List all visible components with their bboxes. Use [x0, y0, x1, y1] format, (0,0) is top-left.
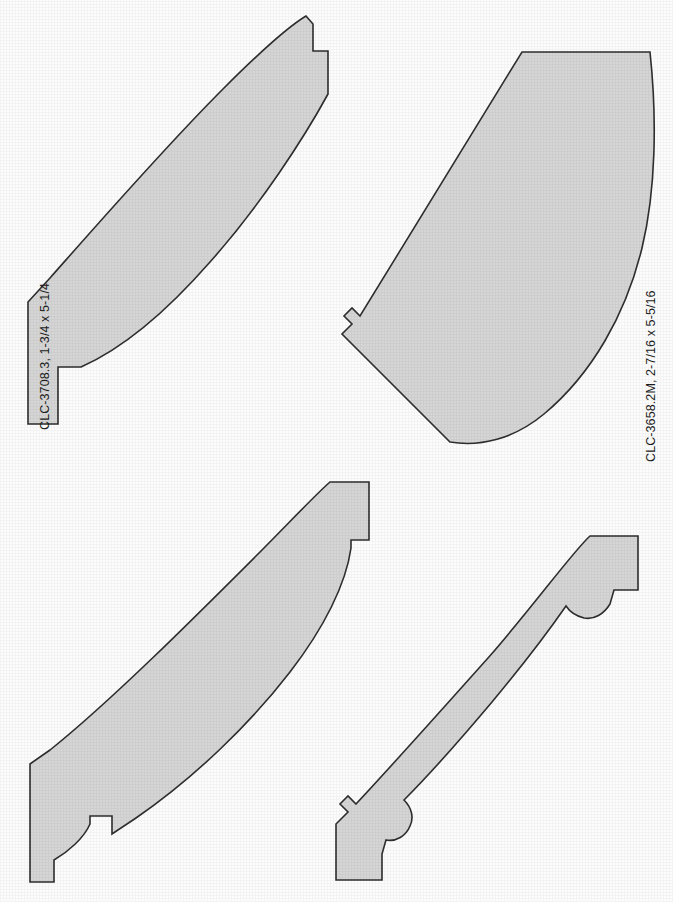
profile-figure-top-right: CLC-3658.2M, 2-7/16 x 5-5/16 [330, 22, 660, 442]
profile-label-top-left: CLC-3708.3, 1-3/4 x 5-1/4 [38, 283, 52, 430]
molding-cross-section-path [28, 16, 328, 424]
profile-figure-top-left: CLC-3708.3, 1-3/4 x 5-1/4 [24, 10, 334, 435]
molding-cross-section-path [336, 536, 638, 880]
molding-cross-section-path [342, 52, 654, 443]
profile-figure-bottom-left: CLC-835, 1-5/16 x 5-11/16 [24, 468, 374, 893]
profile-drawing-bottom-right [326, 528, 656, 896]
profile-drawing-top-left [24, 10, 334, 435]
profile-drawing-bottom-left [24, 468, 374, 893]
profile-figure-bottom-right: CLC-3781.1, 13/16 x 5 F [326, 528, 656, 896]
catalog-page: CLC-3708.3, 1-3/4 x 5-1/4 CLC-3658.2M, 2… [0, 0, 673, 902]
profile-label-top-right: CLC-3658.2M, 2-7/16 x 5-5/16 [644, 290, 658, 462]
profile-drawing-top-right [330, 22, 660, 442]
molding-cross-section-path [30, 482, 369, 882]
